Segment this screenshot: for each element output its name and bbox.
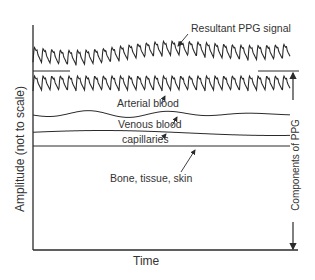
resultant-ppg-waveform: [33, 41, 290, 65]
capillaries-label: capillaries: [122, 134, 169, 145]
components-of-ppg-label: Components of PPG: [291, 118, 301, 213]
resultant-ppg-label: Resultant PPG signal: [191, 23, 291, 34]
x-axis-label: Time: [133, 255, 159, 267]
arterial-blood-waveform: [33, 76, 290, 91]
arterial-blood-label: Arterial blood: [117, 98, 179, 109]
bone-pointer-arrow: [181, 150, 195, 172]
bone-tissue-skin-label: Bone, tissue, skin: [110, 173, 192, 184]
venous-blood-label: Venous blood: [118, 119, 182, 130]
y-axis-label: Amplitude (not to scale): [14, 84, 26, 214]
venous-blood-waveform: [33, 111, 290, 118]
